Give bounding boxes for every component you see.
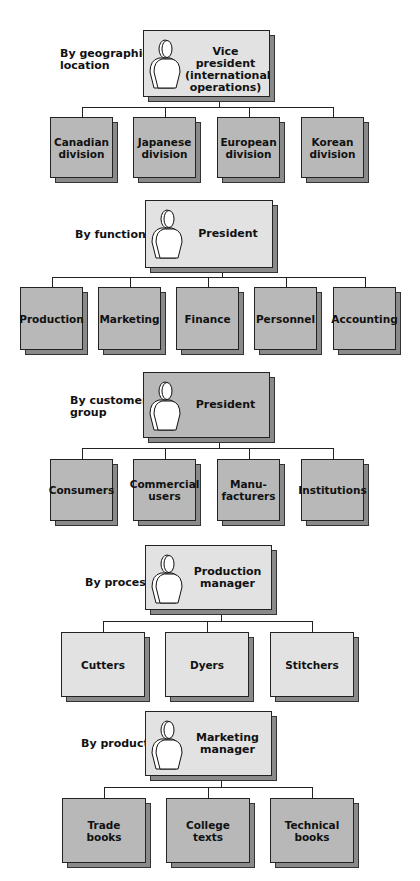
unit-label: Commercialusers xyxy=(130,478,200,502)
unit-label: Accounting xyxy=(331,313,397,325)
title-line: Vice president xyxy=(185,46,266,70)
unit-label-line: Finance xyxy=(184,313,230,325)
unit-label: Institutions xyxy=(298,484,366,496)
connector-line xyxy=(207,621,208,632)
unit-label: Europeandivision xyxy=(220,136,276,160)
person-silhouette-icon xyxy=(148,380,182,438)
connector-line xyxy=(312,787,313,798)
unit-box: Institutions xyxy=(301,459,364,521)
title-line: manager xyxy=(187,744,268,756)
connector-line xyxy=(249,448,250,459)
unit-label-line: Personnel xyxy=(256,313,315,325)
unit-label-line: division xyxy=(54,148,109,160)
title-line: Production xyxy=(187,566,268,578)
unit-label-line: Technical xyxy=(285,819,340,831)
person-silhouette-icon xyxy=(150,208,184,266)
title-line: manager xyxy=(187,578,268,590)
unit-box: Koreandivision xyxy=(301,117,364,178)
unit-label: Japanesedivision xyxy=(138,136,192,160)
connector-line xyxy=(82,107,83,117)
unit-box: Manu-facturers xyxy=(217,459,280,521)
title-line: President xyxy=(187,228,269,240)
person-silhouette-icon xyxy=(150,719,184,777)
connector-line xyxy=(165,107,166,117)
manager-title: Productionmanager xyxy=(187,566,268,590)
unit-label: Cutters xyxy=(81,659,125,671)
unit-label-line: Accounting xyxy=(331,313,397,325)
label-line: By process xyxy=(85,577,152,589)
manager-title: President xyxy=(187,228,269,240)
unit-label: Personnel xyxy=(256,313,315,325)
unit-box: Collegetexts xyxy=(166,798,250,863)
connector-line xyxy=(165,448,166,459)
connector-line xyxy=(365,277,366,287)
manager-title: President xyxy=(185,399,266,411)
connector-line xyxy=(333,448,334,459)
unit-label-line: Production xyxy=(19,313,84,325)
unit-label: Koreandivision xyxy=(309,136,355,160)
unit-label-line: books xyxy=(86,831,121,843)
unit-label: Finance xyxy=(184,313,230,325)
unit-box: Accounting xyxy=(333,287,396,350)
unit-label-line: division xyxy=(220,148,276,160)
unit-label-line: College xyxy=(186,819,230,831)
connector-line xyxy=(312,621,313,632)
unit-label-line: division xyxy=(309,148,355,160)
unit-label-line: Marketing xyxy=(99,313,159,325)
unit-box: Production xyxy=(20,287,83,350)
person-silhouette-icon xyxy=(150,553,184,611)
unit-label: Technicalbooks xyxy=(285,819,340,843)
connector-line xyxy=(208,787,209,798)
structure-type-label: By function xyxy=(75,229,146,241)
title-line: (international xyxy=(185,70,266,82)
connector-line xyxy=(82,448,83,459)
unit-box: Tradebooks xyxy=(62,798,146,863)
connector-line xyxy=(286,277,287,287)
unit-label-line: Stitchers xyxy=(285,659,338,671)
unit-label-line: division xyxy=(138,148,192,160)
connector-line xyxy=(103,621,104,632)
unit-label-line: Consumers xyxy=(49,484,115,496)
unit-label: Canadiandivision xyxy=(54,136,109,160)
unit-label: Production xyxy=(19,313,84,325)
connector-line xyxy=(333,107,334,117)
unit-label-line: texts xyxy=(186,831,230,843)
unit-label-line: Canadian xyxy=(54,136,109,148)
label-line: By product xyxy=(81,738,149,750)
unit-label-line: Trade xyxy=(86,819,121,831)
connector-line xyxy=(208,277,209,287)
connector-line xyxy=(103,621,313,622)
unit-label: Stitchers xyxy=(285,659,338,671)
unit-box: Stitchers xyxy=(270,632,354,697)
unit-box: Dyers xyxy=(165,632,249,697)
connector-line xyxy=(130,277,131,287)
unit-box: Personnel xyxy=(254,287,317,350)
unit-label-line: Korean xyxy=(309,136,355,148)
title-line: Marketing xyxy=(187,732,268,744)
connector-line xyxy=(52,277,53,287)
label-line: group xyxy=(70,407,147,419)
manager-title: Marketingmanager xyxy=(187,732,268,756)
label-line: location xyxy=(60,60,149,72)
structure-type-label: By customergroup xyxy=(70,395,147,419)
unit-label: Manu-facturers xyxy=(221,478,275,502)
unit-label: Collegetexts xyxy=(186,819,230,843)
unit-label-line: Commercial xyxy=(130,478,200,490)
unit-box: Finance xyxy=(176,287,239,350)
unit-label-line: users xyxy=(130,490,200,502)
unit-label-line: books xyxy=(285,831,340,843)
unit-label-line: Dyers xyxy=(190,659,224,671)
unit-label-line: European xyxy=(220,136,276,148)
connector-line xyxy=(104,787,105,798)
structure-type-label: By geographiclocation xyxy=(60,48,149,72)
unit-label: Tradebooks xyxy=(86,819,121,843)
unit-box: Commercialusers xyxy=(133,459,196,521)
unit-box: Europeandivision xyxy=(217,117,280,178)
unit-box: Marketing xyxy=(98,287,161,350)
unit-label: Consumers xyxy=(49,484,115,496)
structure-type-label: By process xyxy=(85,577,152,589)
title-line: President xyxy=(185,399,266,411)
title-line: operations) xyxy=(185,82,266,94)
unit-box: Technicalbooks xyxy=(270,798,354,863)
connector-line xyxy=(52,277,366,278)
